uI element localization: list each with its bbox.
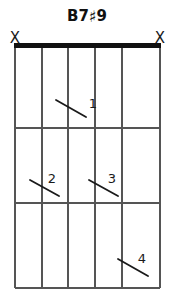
finger-number-3: 3	[108, 172, 116, 185]
nut-bar	[14, 43, 161, 48]
finger-slash-1[interactable]	[56, 100, 86, 117]
fretboard-grid	[0, 0, 174, 300]
finger-number-2: 2	[48, 172, 56, 185]
mute-x-icon-string-6: X	[155, 31, 165, 46]
mute-x-icon-string-1: X	[10, 31, 20, 46]
finger-number-1: 1	[89, 97, 97, 110]
chord-diagram: B7♯9 1234XX	[0, 0, 174, 300]
finger-number-4: 4	[138, 252, 146, 265]
